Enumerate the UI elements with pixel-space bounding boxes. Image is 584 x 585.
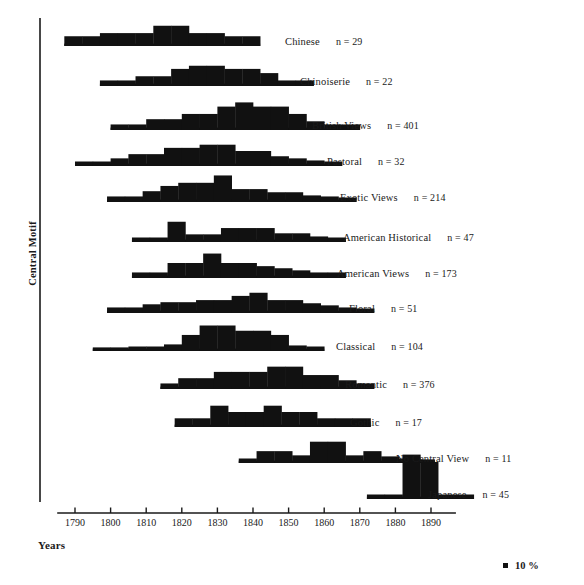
- histogram-bar: [292, 455, 310, 463]
- histogram-bar: [221, 263, 239, 278]
- histogram-bar: [178, 378, 196, 389]
- histogram-bar: [128, 124, 146, 130]
- series-label-british-views: British Viewsn = 401: [312, 120, 419, 131]
- histogram-bar: [128, 347, 146, 352]
- histogram-bar: [178, 183, 196, 202]
- histogram-bar: [125, 307, 143, 313]
- histogram-bar: [111, 158, 129, 166]
- histogram-bar: [185, 263, 203, 278]
- series-count: n = 29: [336, 36, 363, 47]
- series-count: n = 22: [366, 76, 393, 87]
- histogram-bar: [232, 372, 250, 389]
- histogram-bar: [264, 406, 282, 427]
- histogram-bar: [249, 189, 267, 202]
- histogram-bar: [271, 335, 289, 351]
- histogram-bar: [367, 495, 385, 500]
- series-count: n = 32: [378, 156, 405, 167]
- histogram-bar: [200, 326, 218, 352]
- histogram-bar: [107, 196, 125, 202]
- histogram-bar: [346, 455, 364, 463]
- histogram-row: [64, 26, 260, 46]
- histogram-bar: [136, 76, 154, 86]
- series-name: Romantic: [345, 379, 387, 390]
- histogram-bar: [306, 160, 324, 166]
- histogram-bar: [239, 263, 257, 278]
- histogram-row: [132, 222, 346, 242]
- histogram-bar: [82, 36, 100, 46]
- histogram-bar: [182, 335, 200, 351]
- histogram-bar: [118, 80, 136, 86]
- series-count: n = 104: [391, 341, 423, 352]
- histogram-bar: [228, 412, 246, 427]
- histogram-bar: [75, 162, 93, 167]
- series-label-floral: Floraln = 51: [349, 303, 418, 314]
- series-name: Pastoral: [327, 156, 362, 167]
- histogram-bar: [225, 36, 243, 46]
- y-axis-title: Central Motif: [27, 194, 38, 314]
- histogram-bar: [239, 459, 257, 464]
- histogram-bar: [221, 228, 239, 242]
- series-count: n = 401: [387, 120, 419, 131]
- series-name: American Historical: [343, 232, 431, 243]
- histogram-bar: [260, 73, 278, 86]
- histogram-row: [160, 367, 374, 389]
- series-name: Japanese: [428, 489, 467, 500]
- histogram-bar: [203, 234, 221, 242]
- histogram-bar: [160, 302, 178, 313]
- x-axis-tick-label: 1880: [385, 517, 405, 528]
- histogram-bar: [153, 26, 171, 46]
- histogram-bar: [64, 36, 82, 46]
- histogram-bar: [321, 196, 339, 202]
- histogram-bar: [171, 69, 189, 86]
- histogram-bar: [200, 145, 218, 166]
- histogram-bar: [146, 347, 164, 352]
- series-count: n = 173: [425, 268, 457, 279]
- histogram-bar: [164, 148, 182, 166]
- x-axis-tick-label: 1890: [421, 517, 441, 528]
- histogram-bar: [303, 195, 321, 202]
- histogram-bar: [242, 36, 260, 46]
- series-label-exotic-views: Exotic Viewsn = 214: [340, 192, 446, 203]
- histogram-bar: [363, 451, 381, 463]
- histogram-bar: [257, 451, 275, 463]
- histogram-bar: [267, 300, 285, 313]
- histogram-bar: [164, 344, 182, 351]
- histogram-bar: [246, 412, 264, 427]
- chart-figure: 1790180018101820183018401850186018701880…: [0, 0, 584, 585]
- series-label-romantic: Romanticn = 376: [345, 379, 435, 390]
- histogram-bar: [303, 303, 321, 313]
- series-name: British Views: [312, 120, 371, 131]
- histogram-bar: [160, 186, 178, 202]
- x-axis-tick-label: 1810: [136, 517, 156, 528]
- histogram-bar: [146, 119, 164, 130]
- histogram-bar: [232, 296, 250, 313]
- series-name: Chinese: [285, 36, 320, 47]
- histogram-bar: [310, 442, 328, 463]
- histogram-bar: [257, 266, 275, 278]
- series-name: Gothic: [350, 417, 379, 428]
- series-count: n = 51: [391, 303, 418, 314]
- histogram-bar: [100, 80, 118, 86]
- histogram-bar: [128, 154, 146, 166]
- histogram-bar: [182, 114, 200, 130]
- histogram-bar: [150, 238, 168, 243]
- x-axis-tick-label: 1860: [314, 517, 334, 528]
- histogram-row: [75, 145, 342, 166]
- histogram-bar: [281, 412, 299, 427]
- x-axis-tick-label: 1830: [207, 517, 227, 528]
- histogram-bar: [207, 66, 225, 86]
- histogram-bar: [271, 107, 289, 130]
- histogram-bar: [274, 451, 292, 463]
- legend: 10 %: [503, 560, 539, 571]
- histogram-bar: [235, 102, 253, 130]
- series-label-classical: Classicaln = 104: [336, 341, 423, 352]
- histogram-bar: [136, 33, 154, 46]
- series-name: Exotic Views: [340, 192, 398, 203]
- histogram-bar: [182, 148, 200, 166]
- histogram-row: [175, 406, 371, 427]
- histogram-bar: [143, 191, 161, 202]
- histogram-bar: [178, 302, 196, 313]
- histogram-bar: [310, 236, 328, 242]
- histogram-bar: [285, 192, 303, 202]
- histogram-row: [107, 175, 357, 202]
